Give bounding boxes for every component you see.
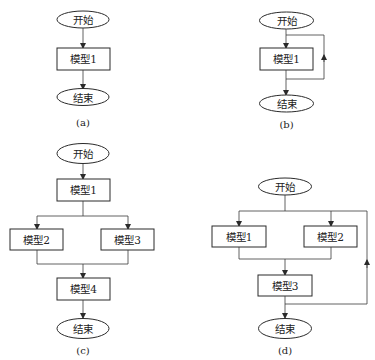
caption-a: (a) xyxy=(76,117,90,128)
start-label-c: 开始 xyxy=(73,148,94,160)
diagram-a: 开始 模型1 结束 (a) xyxy=(57,11,110,128)
end-label-d: 结束 xyxy=(275,323,296,335)
diagram-d: 开始 模型1 模型2 模型3 结束 (d) xyxy=(212,178,367,356)
caption-b: (b) xyxy=(279,119,293,130)
model-label-c-4: 模型4 xyxy=(70,283,97,295)
model-label-c-2: 模型2 xyxy=(23,234,50,246)
merge-bar-d xyxy=(239,247,331,259)
model-label-d-1: 模型1 xyxy=(226,231,253,243)
model-label-c-3: 模型3 xyxy=(114,234,141,246)
end-label-b: 结束 xyxy=(277,98,298,110)
end-label-a: 结束 xyxy=(73,92,94,104)
merge-bar-c xyxy=(37,250,128,264)
caption-c: (c) xyxy=(76,345,90,356)
caption-d: (d) xyxy=(278,345,292,356)
model-label-a-1: 模型1 xyxy=(70,53,97,65)
end-label-c: 结束 xyxy=(73,323,94,335)
flowchart-figure: 开始 模型1 结束 (a) 开始 模型1 结束 (b) 开始 模型1 xyxy=(0,0,375,360)
start-label-d: 开始 xyxy=(275,181,296,193)
start-label-b: 开始 xyxy=(277,15,298,27)
start-label-a: 开始 xyxy=(73,14,94,26)
diagram-c: 开始 模型1 模型2 模型3 模型4 结束 (c) xyxy=(10,144,154,356)
model-label-d-3: 模型3 xyxy=(272,280,299,292)
model-label-b-1: 模型1 xyxy=(273,53,300,65)
model-label-d-2: 模型2 xyxy=(317,231,344,243)
diagram-b: 开始 模型1 结束 (b) xyxy=(260,12,325,130)
model-label-c-1: 模型1 xyxy=(70,184,97,196)
